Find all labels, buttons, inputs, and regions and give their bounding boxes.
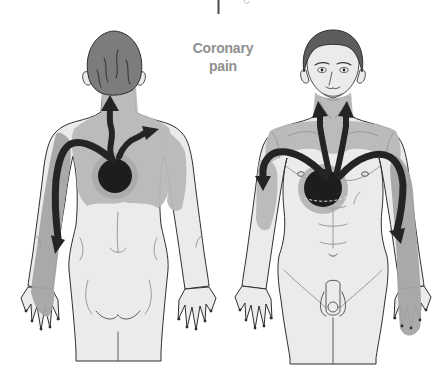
front-left-hand: [235, 286, 272, 329]
right-pupil: [343, 69, 346, 72]
back-arrow-up-neck: [110, 110, 113, 160]
back-right-hand: [178, 287, 216, 330]
caption: Coronary pain: [181, 39, 265, 75]
front-head: [301, 30, 366, 101]
page-crop-tick: [219, 0, 250, 14]
back-head-hair: [87, 31, 142, 95]
posterior-figure: [21, 31, 216, 361]
caption-line-2: pain: [181, 57, 265, 75]
medical-illustration: Coronary pain: [0, 0, 443, 370]
back-head: [83, 31, 146, 95]
right-nipple: [362, 172, 369, 177]
left-pupil: [321, 69, 324, 72]
genitalia: [326, 280, 340, 315]
back-heart-circle: [98, 159, 132, 193]
caption-line-1: Coronary: [181, 39, 265, 57]
anterior-figure: [235, 30, 431, 364]
